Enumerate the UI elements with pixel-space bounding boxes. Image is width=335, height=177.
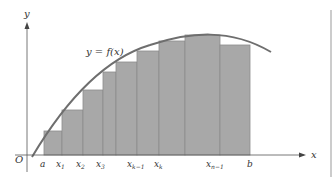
riemann-diagram: y x O y = f(x) a x1 x2 x3 xk−1 xk xn−1 b <box>0 0 335 177</box>
rectangles <box>44 35 250 155</box>
tick-a: a <box>40 159 45 169</box>
origin-label: O <box>15 154 23 165</box>
tick-x3: x3 <box>96 159 105 170</box>
tick-x2: x2 <box>76 159 85 170</box>
rectangle-7 <box>159 41 185 155</box>
tick-xk: xk <box>154 159 163 170</box>
tick-labels: a x1 x2 x3 xk−1 xk xn−1 b <box>40 159 253 170</box>
rectangle-4 <box>103 72 116 155</box>
rectangle-3 <box>83 90 103 155</box>
y-axis-label: y <box>23 8 30 19</box>
curve-label: y = f(x) <box>85 46 124 57</box>
rectangle-9 <box>220 45 250 155</box>
rectangle-2 <box>62 110 83 155</box>
x-axis-arrow-icon <box>299 153 306 158</box>
x-axis-label: x <box>311 149 317 160</box>
rectangle-6 <box>137 51 159 155</box>
y-axis-arrow-icon <box>25 22 30 29</box>
rectangle-5 <box>116 62 137 155</box>
tick-b: b <box>247 159 253 169</box>
tick-xk-1: xk−1 <box>127 159 145 170</box>
rectangle-8 <box>185 35 220 155</box>
tick-xn-1: xn−1 <box>206 159 224 170</box>
tick-x1: x1 <box>56 159 65 170</box>
